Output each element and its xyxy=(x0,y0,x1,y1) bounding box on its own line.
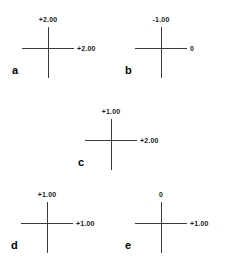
horizontal-meridian-power-label: +2.00 xyxy=(140,137,159,144)
horizontal-meridian-power-label: +1.00 xyxy=(190,220,209,227)
panel-letter-c: c xyxy=(78,157,84,168)
vertical-meridian-power-label: +2.00 xyxy=(39,16,58,23)
vertical-meridian-line xyxy=(48,27,49,78)
optical-cross-figure: +2.00+2.00a-1.000b+1.00+2.00c+1.00+1.00d… xyxy=(0,0,229,259)
panel-letter-e: e xyxy=(125,240,131,251)
vertical-meridian-line xyxy=(111,119,112,170)
vertical-meridian-line xyxy=(47,202,48,253)
horizontal-meridian-power-label: 0 xyxy=(190,45,194,52)
panel-letter-a: a xyxy=(12,65,18,76)
vertical-meridian-line xyxy=(161,27,162,78)
vertical-meridian-power-label: +1.00 xyxy=(38,191,57,198)
vertical-meridian-power-label: 0 xyxy=(159,191,163,198)
vertical-meridian-power-label: -1.00 xyxy=(153,16,170,23)
vertical-meridian-line xyxy=(161,202,162,253)
panel-letter-d: d xyxy=(11,240,18,251)
panel-letter-b: b xyxy=(125,65,132,76)
vertical-meridian-power-label: +1.00 xyxy=(102,108,121,115)
horizontal-meridian-power-label: +1.00 xyxy=(76,220,95,227)
horizontal-meridian-power-label: +2.00 xyxy=(77,45,96,52)
